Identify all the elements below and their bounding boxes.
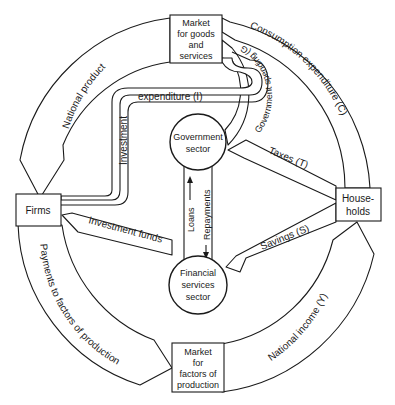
svg-text:House-: House-: [342, 193, 374, 204]
financial-node: Financial services sector: [169, 256, 227, 314]
svg-text:for goods: for goods: [177, 29, 215, 39]
svg-text:sector: sector: [186, 292, 211, 302]
svg-text:for: for: [193, 358, 204, 368]
market-goods-node: Market for goods and services: [170, 15, 222, 63]
svg-text:holds: holds: [346, 206, 370, 217]
svg-text:Market: Market: [184, 347, 212, 357]
svg-text:Financial: Financial: [180, 268, 216, 278]
svg-text:factors of: factors of: [179, 369, 217, 379]
national-income-flow: [222, 222, 374, 392]
households-node: House- holds: [336, 188, 381, 221]
investment-expenditure-label: expenditure (I): [138, 91, 202, 102]
svg-text:Government: Government: [173, 132, 223, 142]
svg-text:Market: Market: [182, 18, 210, 28]
government-node: Government sector: [170, 114, 226, 170]
circular-flow-diagram: National product Consumption expenditure…: [0, 0, 395, 405]
svg-text:production: production: [177, 380, 219, 390]
svg-text:services: services: [181, 280, 215, 290]
svg-text:Firms: Firms: [26, 205, 51, 216]
svg-text:sector: sector: [186, 144, 211, 154]
repayments-label: Repayments: [202, 189, 212, 240]
svg-text:and: and: [188, 40, 203, 50]
national-product-flow: [20, 18, 170, 198]
firms-node: Firms: [16, 194, 61, 226]
savings-label: Savings (S): [259, 222, 311, 252]
investment-label: Investment: [118, 116, 129, 165]
svg-text:services: services: [179, 51, 213, 61]
market-factors-node: Market for factors of production: [172, 343, 224, 392]
loans-label: Loans: [186, 207, 196, 232]
